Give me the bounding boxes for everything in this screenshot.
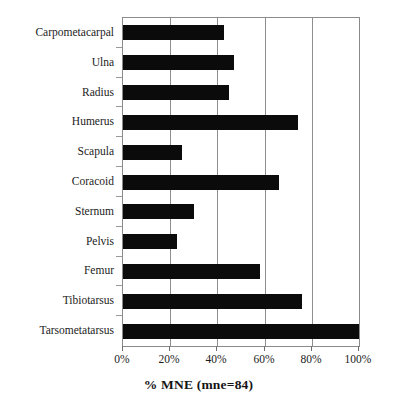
y-axis-tick-label: Femur [84,262,114,278]
y-axis-tick-label: Ulna [92,54,114,70]
bar [123,55,234,70]
y-axis-tick-mark [116,315,122,316]
x-axis-tick-mark [122,346,123,351]
y-axis-tick-label: Humerus [72,113,114,129]
x-axis-tick-mark [358,346,359,351]
y-axis-tick-mark [116,136,122,137]
y-axis-tick-label: Pelvis [86,233,114,249]
bar [123,234,177,249]
y-axis-tick-mark [116,285,122,286]
x-axis-tick-mark [169,346,170,351]
x-axis-tick-mark [311,346,312,351]
y-axis-tick-labels: CarpometacarpalUlnaRadiusHumerusScapulaC… [0,17,118,345]
bar [123,175,279,190]
y-axis-tick-label: Carpometacarpal [35,24,114,40]
y-axis-tick-label: Tarsometatarsus [39,322,114,338]
y-axis-tick-label: Coracoid [72,173,114,189]
bar [123,204,194,219]
x-axis-tick-label: 100% [328,353,388,365]
bar [123,294,302,309]
chart-figure: Element CarpometacarpalUlnaRadiusHumerus… [0,0,397,410]
y-axis-tick-label: Sternum [75,203,114,219]
gridline-80% [312,18,313,346]
bar [123,85,229,100]
bar [123,324,359,339]
bar [123,25,224,40]
y-axis-tick-mark [116,47,122,48]
x-axis-tick-mark [216,346,217,351]
y-axis-tick-mark [116,226,122,227]
bar [123,145,182,160]
y-axis-tick-label: Tibiotarsus [63,292,114,308]
y-axis-tick-label: Scapula [78,143,114,159]
y-axis-tick-mark [116,77,122,78]
bar [123,115,298,130]
y-axis-tick-label: Radius [82,84,114,100]
x-axis-title: % MNE (mne=84) [0,377,397,393]
y-axis-tick-mark [116,256,122,257]
y-axis-tick-mark [116,196,122,197]
bar [123,264,260,279]
plot-area [122,17,360,347]
y-axis-tick-mark [116,106,122,107]
y-axis-tick-mark [116,166,122,167]
x-axis-tick-mark [264,346,265,351]
